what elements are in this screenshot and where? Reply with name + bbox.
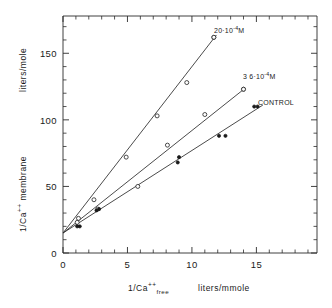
y-axis-title-suffix: membrane [18, 156, 28, 201]
data-point-3-6x10-4m [136, 184, 140, 188]
label-36e-4M-suffix: M [269, 73, 275, 80]
label-36e-4M: 3 6·10-4M [243, 73, 276, 80]
x-axis-title-charge: ++ [148, 281, 157, 288]
plot-canvas [0, 0, 332, 308]
x-axis-units-label: liters/mmole [198, 283, 250, 293]
data-point-control [98, 207, 101, 210]
data-point-control [177, 156, 180, 159]
data-point-20x10-4m [185, 81, 189, 85]
label-20e-4M-base: 20·10 [214, 27, 233, 34]
legend-marker-label-20e-4M [212, 35, 216, 39]
y-axis-title-charge: ++ [16, 203, 23, 212]
label-36e-4M-base: 3 6·10 [243, 73, 264, 80]
axis-frame-left-bottom [63, 16, 317, 253]
y-tick-label-50: 50 [29, 181, 57, 192]
y-tick-label-150: 150 [29, 48, 57, 59]
double-reciprocal-plot-figure: 051015050100150 20·10-4M3 6·10-4MCONTROL… [0, 0, 332, 308]
x-tick-label-10: 10 [186, 259, 197, 270]
x-tick-label-5: 5 [125, 259, 131, 270]
fit-line-control [63, 105, 263, 233]
data-point-3-6x10-4m [203, 113, 207, 117]
x-tick-label-0: 0 [60, 259, 66, 270]
y-tick-label-0: 0 [29, 248, 57, 259]
fit-line-3-6x10-4m [63, 88, 245, 233]
legend-marker-control-a [253, 105, 256, 108]
y-axis-title: 1/Ca++ membrane [18, 156, 28, 232]
data-point-control [176, 161, 179, 164]
data-point-control [78, 225, 81, 228]
label-20e-4M-suffix: M [238, 27, 244, 34]
data-point-3-6x10-4m [165, 143, 169, 147]
data-point-control [217, 134, 220, 137]
label-control: CONTROL [258, 99, 294, 106]
y-axis-title-prefix: 1/Ca [18, 212, 28, 232]
data-point-20x10-4m [155, 114, 159, 118]
x-axis-title: 1/Ca++free [128, 283, 169, 293]
data-point-20x10-4m [76, 216, 80, 220]
x-axis-title-state: free [157, 288, 170, 295]
data-point-20x10-4m [92, 198, 96, 202]
fit-line-20x10-4m [63, 35, 216, 233]
data-point-20x10-4m [124, 155, 128, 159]
y-tick-label-100: 100 [29, 114, 57, 125]
data-point-3-6x10-4m [75, 220, 79, 224]
x-axis-title-prefix: 1/Ca [128, 283, 148, 293]
y-axis-units-label: liters/mole [18, 48, 28, 92]
data-point-control [224, 134, 227, 137]
label-20e-4M: 20·10-4M [214, 27, 244, 34]
legend-marker-label-36e-4M [242, 87, 246, 91]
x-tick-label-15: 15 [251, 259, 262, 270]
